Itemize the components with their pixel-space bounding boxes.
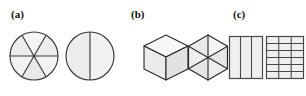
panel-label-c: (c) — [233, 9, 245, 20]
rectangle-three-columns — [228, 35, 264, 80]
figure-panel-set: (a) — [0, 0, 306, 96]
panel-label-a: (a) — [11, 9, 24, 20]
panel-label-b: (b) — [131, 9, 144, 20]
panel-b: (b) — [120, 0, 225, 96]
circle-six-sectors — [6, 28, 62, 84]
rect-columns-fill — [230, 37, 263, 79]
rectangle-grid — [265, 35, 305, 80]
circle-six-sectors-center-dot — [33, 55, 36, 58]
panel-a: (a) — [0, 0, 120, 96]
circle-two-halves — [62, 28, 118, 84]
panel-c: (c) — [225, 0, 306, 96]
